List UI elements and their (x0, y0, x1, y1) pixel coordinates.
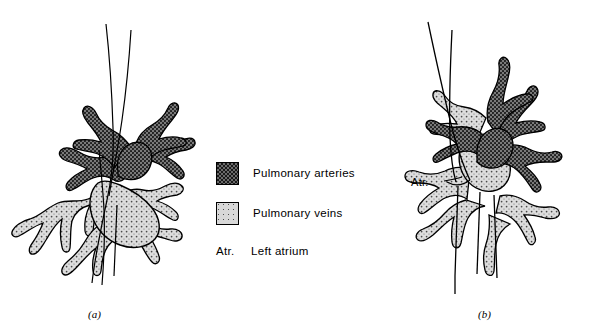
legend-note-atrium: Atr. Left atrium (216, 240, 396, 262)
panel-b-drawing (405, 22, 562, 294)
legend: Pulmonary arteries Pulmonary veins Atr. … (216, 160, 396, 262)
legend-label-veins: Pulmonary veins (253, 207, 343, 219)
legend-item-arteries: Pulmonary arteries (216, 160, 396, 186)
legend-label-arteries: Pulmonary arteries (253, 167, 355, 179)
legend-abbr-atr: Atr. (216, 245, 251, 257)
legend-note-text: Left atrium (251, 245, 309, 257)
panel-label-a: (a) (88, 308, 101, 320)
legend-swatch-veins (216, 202, 239, 225)
panel-a-pulmonary-arteries (59, 103, 195, 191)
panel-label-b: (b) (478, 308, 491, 320)
legend-swatch-arteries (216, 162, 239, 185)
legend-item-veins: Pulmonary veins (216, 200, 396, 226)
panel-a-drawing (12, 24, 195, 285)
atr-annotation: Atr. (411, 176, 429, 188)
